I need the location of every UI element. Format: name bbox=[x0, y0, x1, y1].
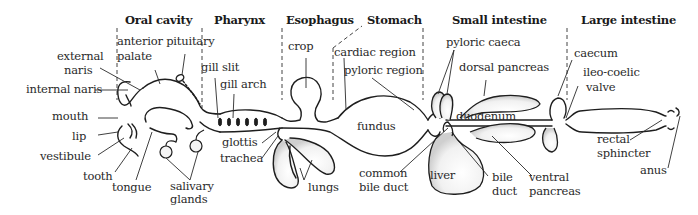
label-caecum: caecum bbox=[574, 47, 618, 60]
gill-slits bbox=[218, 118, 266, 126]
section-header-oral-cavity: Oral cavity bbox=[125, 13, 192, 27]
label-pyloric-caeca: pyloric caeca bbox=[446, 36, 521, 49]
label-lip: lip bbox=[72, 130, 86, 143]
label-anus: anus bbox=[640, 164, 667, 177]
label-pyloric-region: pyloric region bbox=[344, 64, 423, 77]
label-rectal-sphincter-1: rectal bbox=[597, 133, 630, 146]
label-vestibule: vestibule bbox=[40, 150, 91, 163]
label-mouth: mouth bbox=[52, 110, 88, 123]
section-header-large-intestine: Large intestine bbox=[581, 13, 676, 27]
label-salivary-glands-2: glands bbox=[170, 193, 207, 206]
label-ileo-coelic-valve-1: ileo-coelic bbox=[583, 66, 640, 79]
label-duodenum: duodenum bbox=[456, 110, 516, 123]
label-ventral-pancreas-1: ventral bbox=[529, 171, 569, 184]
label-tooth: tooth bbox=[83, 170, 113, 183]
label-common-bile-duct-2: bile duct bbox=[359, 181, 408, 194]
label-external-naris-1: external bbox=[57, 50, 104, 63]
label-gill-arch: gill arch bbox=[220, 78, 266, 91]
section-header-stomach: Stomach bbox=[367, 13, 422, 27]
section-header-pharynx: Pharynx bbox=[214, 13, 265, 27]
label-rectal-sphincter-2: sphincter bbox=[597, 147, 650, 160]
label-internal-naris: internal naris bbox=[26, 83, 102, 96]
label-lungs: lungs bbox=[308, 181, 339, 194]
label-bile-duct-1: bile bbox=[492, 171, 513, 184]
label-dorsal-pancreas: dorsal pancreas bbox=[459, 61, 549, 74]
label-bile-duct-2: duct bbox=[492, 185, 517, 198]
label-gill-slit: gill slit bbox=[201, 61, 239, 74]
label-ventral-pancreas-2: pancreas bbox=[529, 185, 581, 198]
section-header-small-intestine: Small intestine bbox=[452, 13, 547, 27]
label-external-naris-2: naris bbox=[64, 64, 92, 77]
label-palate: palate bbox=[117, 50, 152, 63]
label-glottis: glottis bbox=[222, 136, 257, 149]
label-tongue: tongue bbox=[112, 181, 151, 194]
label-crop: crop bbox=[288, 40, 313, 53]
label-ileo-coelic-valve-2: valve bbox=[586, 81, 615, 94]
label-anterior-pituitary: anterior pituitary bbox=[117, 35, 215, 48]
label-cardiac-region: cardiac region bbox=[334, 46, 416, 59]
label-common-bile-duct-1: common bbox=[359, 167, 407, 180]
label-liver: liver bbox=[430, 169, 455, 182]
label-trachea: trachea bbox=[220, 152, 263, 165]
label-fundus: fundus bbox=[357, 120, 396, 133]
section-header-esophagus: Esophagus bbox=[286, 13, 354, 27]
